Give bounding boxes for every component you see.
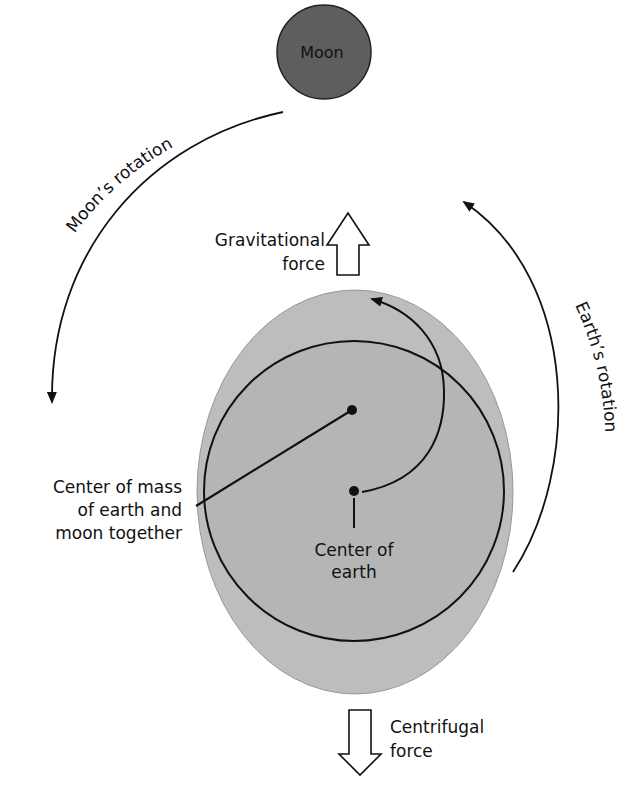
gravitational-force-label-1: Gravitational (215, 230, 325, 250)
center-of-earth-label-2: earth (331, 562, 376, 582)
centrifugal-force-label-1: Centrifugal (390, 717, 484, 737)
earth-rotation-label: Earth’s rotation (571, 298, 621, 432)
center-of-mass-label-1: Center of mass (53, 477, 182, 497)
moon-label: Moon (300, 43, 344, 62)
centrifugal-force-arrow (339, 710, 381, 775)
gravitational-force-arrow (327, 213, 369, 275)
moon: Moon (277, 5, 371, 99)
center-of-earth-dot (349, 486, 359, 496)
tides-diagram: Moon Gravitational force Centrifugal for… (0, 0, 636, 811)
center-of-mass-label-3: moon together (55, 523, 182, 543)
moon-rotation-label: Moon’s rotation (62, 133, 176, 236)
center-of-mass-label-2: of earth and (78, 500, 182, 520)
centrifugal-force-label-2: force (390, 741, 433, 761)
center-of-earth-label-1: Center of (314, 540, 394, 560)
gravitational-force-label-2: force (282, 254, 325, 274)
